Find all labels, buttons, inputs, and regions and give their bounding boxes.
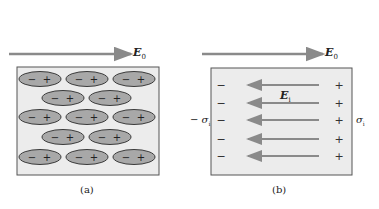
positive-surface-charge-label: σi <box>356 114 365 127</box>
negative-charge-sign: − <box>216 114 225 127</box>
dipole: −+ <box>89 130 131 145</box>
dipole: −+ <box>113 72 155 87</box>
caption-b: (b) <box>272 184 286 195</box>
dipole-positive-sign: + <box>113 132 121 143</box>
panel-a: −+−+−+−+−+−+−+−+−+−+−+−+−+ <box>9 54 159 175</box>
external-field-label-a: E0 <box>133 46 146 61</box>
dipole-positive-sign: + <box>137 74 145 85</box>
dipole-positive-sign: + <box>90 152 98 163</box>
external-field-label-b: E0 <box>325 46 338 61</box>
dipole-positive-sign: + <box>43 152 51 163</box>
positive-charge-sign: + <box>334 133 343 146</box>
positive-charge-sign: + <box>334 97 343 110</box>
negative-charge-sign: − <box>216 97 225 110</box>
dipole: −+ <box>19 110 61 125</box>
dipole: −+ <box>66 72 108 87</box>
dipole-positive-sign: + <box>137 112 145 123</box>
dipole-negative-sign: − <box>122 112 130 123</box>
dipole: −+ <box>66 110 108 125</box>
negative-surface-charge-label: − σi <box>190 114 210 127</box>
positive-charge-sign: + <box>334 150 343 163</box>
dipole-positive-sign: + <box>66 132 74 143</box>
positive-charge-sign: + <box>334 114 343 127</box>
dipole: −+ <box>19 150 61 165</box>
negative-charge-sign: − <box>216 133 225 146</box>
dipole: −+ <box>42 130 84 145</box>
dipole-positive-sign: + <box>90 74 98 85</box>
dipole: −+ <box>89 91 131 106</box>
dipole-negative-sign: − <box>51 132 59 143</box>
dipole-positive-sign: + <box>66 93 74 104</box>
dipole-positive-sign: + <box>43 74 51 85</box>
dipole-negative-sign: − <box>75 152 83 163</box>
panel-b: −+−+−+−+−+ <box>202 54 352 175</box>
dipole: −+ <box>19 72 61 87</box>
dipole-negative-sign: − <box>28 112 36 123</box>
dipole-positive-sign: + <box>137 152 145 163</box>
dipole: −+ <box>42 91 84 106</box>
dipole-negative-sign: − <box>98 132 106 143</box>
negative-charge-sign: − <box>216 150 225 163</box>
dipole: −+ <box>113 110 155 125</box>
dipole-negative-sign: − <box>51 93 59 104</box>
negative-charge-sign: − <box>216 79 225 92</box>
dipole: −+ <box>113 150 155 165</box>
diagram-canvas: −+−+−+−+−+−+−+−+−+−+−+−+−+ −+−+−+−+−+ <box>0 0 379 209</box>
positive-charge-sign: + <box>334 79 343 92</box>
dipole-negative-sign: − <box>28 152 36 163</box>
dipole-grid: −+−+−+−+−+−+−+−+−+−+−+−+−+ <box>19 72 155 165</box>
internal-field-label: Ei <box>280 89 291 104</box>
dipole-negative-sign: − <box>28 74 36 85</box>
dipole-positive-sign: + <box>90 112 98 123</box>
dipole-negative-sign: − <box>98 93 106 104</box>
caption-a: (a) <box>80 184 94 195</box>
dipole-negative-sign: − <box>75 74 83 85</box>
dipole-negative-sign: − <box>75 112 83 123</box>
dipole-negative-sign: − <box>122 74 130 85</box>
dipole: −+ <box>66 150 108 165</box>
dipole-positive-sign: + <box>43 112 51 123</box>
dipole-negative-sign: − <box>122 152 130 163</box>
dipole-positive-sign: + <box>113 93 121 104</box>
